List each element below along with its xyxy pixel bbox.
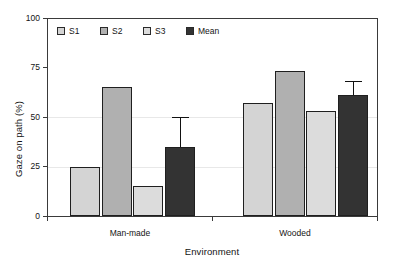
- legend-label-s3: S3: [155, 26, 165, 36]
- chart-figure: 100 75 50 25 0 Gaze on path (%) Man-made…: [0, 0, 394, 267]
- y-tick-label-75: 75: [16, 62, 40, 72]
- bar-wooded-s2: [275, 71, 305, 216]
- plot-top-border: [47, 18, 378, 19]
- y-axis-title: Gaze on path (%): [13, 101, 24, 177]
- bar-man-made-mean: [165, 147, 195, 216]
- bar-man-made-s2: [102, 87, 132, 216]
- legend-swatch-s2: [100, 27, 108, 35]
- x-axis-left-tick: [47, 216, 48, 221]
- y-tick-label-0: 0: [16, 211, 40, 221]
- x-group-separator-tick: [212, 216, 213, 221]
- legend-label-s2: S2: [112, 26, 122, 36]
- x-category-label-wooded: Wooded: [255, 228, 335, 238]
- legend-swatch-s1: [57, 27, 65, 35]
- y-tick-label-100: 100: [16, 13, 40, 23]
- y-tick-mark-100: [43, 18, 48, 19]
- x-category-label-man-made: Man-made: [90, 228, 170, 238]
- bar-man-made-s3: [133, 186, 163, 216]
- bar-wooded-s3: [306, 111, 336, 216]
- y-tick-mark-75: [43, 67, 48, 68]
- legend-label-mean: Mean: [198, 26, 219, 36]
- bar-wooded-mean: [338, 95, 368, 216]
- bar-man-made-s1: [70, 167, 100, 217]
- errorbar-stem-wooded-mean: [353, 81, 354, 95]
- errorbar-stem-man-made-mean: [180, 117, 181, 147]
- x-axis-right-tick: [377, 216, 378, 221]
- plot-right-border: [377, 18, 378, 217]
- errorbar-cap-man-made-mean: [172, 117, 189, 118]
- x-axis-title: Environment: [152, 246, 272, 257]
- bar-wooded-s1: [243, 103, 273, 216]
- legend-swatch-s3: [143, 27, 151, 35]
- errorbar-cap-wooded-mean: [345, 81, 362, 82]
- y-tick-mark-25: [43, 166, 48, 167]
- legend-label-s1: S1: [69, 26, 79, 36]
- y-tick-mark-50: [43, 117, 48, 118]
- legend-swatch-mean: [186, 27, 194, 35]
